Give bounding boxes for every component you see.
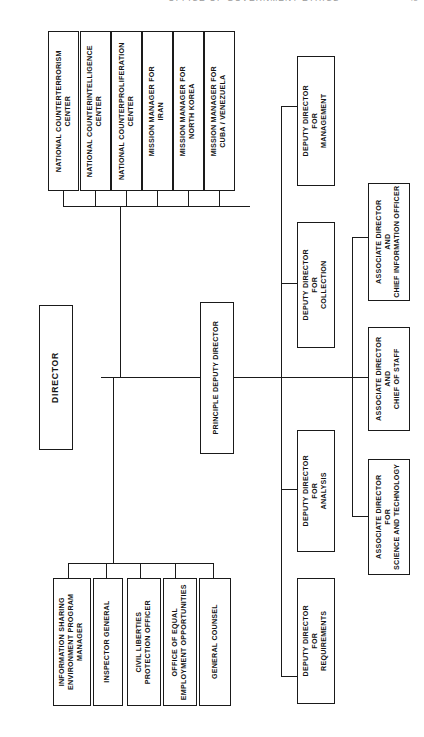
node-civil-liberties-protection-officer[interactable]: CIVIL LIBERTIESPROTECTION OFFICER (127, 578, 161, 706)
node-deputy-director-management[interactable]: DEPUTY DIRECTORFORMANAGEMENT (297, 56, 335, 186)
node-deputy-director-collection[interactable]: DEPUTY DIRECTORFORCOLLECTION (297, 222, 335, 348)
node-label: DEPUTY DIRECTORFORREQUIREMENTS (302, 605, 330, 676)
node-label: DEPUTY DIRECTORFORCOLLECTION (302, 249, 330, 320)
connector-center-drop (95, 190, 96, 207)
node-label: NATIONAL COUNTERINTELLIGENCECENTER (86, 45, 104, 177)
node-deputy-director-analysis[interactable]: DEPUTY DIRECTORFORANALYSIS (297, 430, 335, 552)
node-label: INFORMATION SHARINGENVIRONMENT PROGRAMMA… (58, 594, 86, 690)
connector-deputy-stub (281, 676, 298, 677)
node-label: DIRECTOR (51, 352, 62, 403)
node-associate-director-chief-information-officer[interactable]: ASSOCIATE DIRECTORANDCHIEF INFORMATION O… (368, 183, 410, 301)
node-director[interactable]: DIRECTOR (39, 305, 73, 450)
node-associate-director-science-and-technology[interactable]: ASSOCIATE DIRECTORFORSCIENCE AND TECHNOL… (368, 459, 410, 575)
org-chart: NATIONAL COUNTERTERRORISMCENTER NATIONAL… (0, 0, 424, 737)
node-mission-manager-north-korea[interactable]: MISSION MANAGER FORNORTH KOREA (173, 31, 204, 191)
connector-associate-stub (352, 377, 369, 378)
node-label: DEPUTY DIRECTORFORANALYSIS (302, 455, 330, 526)
node-office-of-equal-employment-opportunities[interactable]: OFFICE OF EQUALEMPLOYMENT OPPORTUNITIES (163, 578, 197, 706)
node-label: NATIONAL COUNTERPROLIFERATIONCENTER (117, 42, 135, 180)
connector-staff-riser (113, 377, 114, 564)
node-label: DEPUTY DIRECTORFORMANAGEMENT (302, 85, 330, 156)
connector-deputy-stub (281, 106, 298, 107)
node-label: ASSOCIATE DIRECTORANDCHIEF OF STAFF (375, 337, 403, 421)
node-label: PRINCIPLE DEPUTY DIRECTOR (212, 321, 221, 435)
connector-center-drop (157, 190, 158, 207)
connector-staff-drop (175, 563, 176, 578)
node-deputy-director-requirements[interactable]: DEPUTY DIRECTORFORREQUIREMENTS (297, 578, 335, 704)
connector-staff-drop (213, 563, 214, 578)
node-label: MISSION MANAGER FORCUBA / VENEZUELA (210, 66, 228, 156)
node-mission-manager-cuba-venezuela[interactable]: MISSION MANAGER FORCUBA / VENEZUELA (204, 31, 235, 191)
connector-staff-drop (140, 563, 141, 578)
node-label: GENERAL COUNSEL (210, 605, 219, 680)
connector-centers-bus-left (63, 206, 121, 207)
node-label: ASSOCIATE DIRECTORFORSCIENCE AND TECHNOL… (375, 464, 403, 570)
node-label: OFFICE OF EQUALEMPLOYMENT OPPORTUNITIES (171, 584, 189, 700)
node-label: MISSION MANAGER FORNORTH KOREA (179, 66, 197, 156)
connector-staff-drop (68, 563, 69, 578)
connector-centers-riser (120, 206, 121, 378)
node-principle-deputy-director[interactable]: PRINCIPLE DEPUTY DIRECTOR (200, 302, 234, 454)
connector-center-drop (126, 190, 127, 207)
connector-center-drop (63, 190, 64, 207)
node-inspector-general[interactable]: INSPECTOR GENERAL (93, 578, 123, 706)
connector-associate-stub (352, 237, 369, 238)
node-label: CIVIL LIBERTIESPROTECTION OFFICER (135, 600, 153, 684)
connector-center-drop (188, 190, 189, 207)
connector-associate-stub (352, 516, 369, 517)
node-label: ASSOCIATE DIRECTORANDCHIEF INFORMATION O… (375, 186, 403, 298)
connector-deputy-stub (281, 283, 298, 284)
node-national-counterproliferation-center[interactable]: NATIONAL COUNTERPROLIFERATIONCENTER (111, 31, 142, 191)
connector-centers-bus (120, 206, 250, 207)
node-general-counsel[interactable]: GENERAL COUNSEL (199, 578, 231, 706)
connector-staff-drop (106, 563, 107, 578)
node-information-sharing-environment-program-manager[interactable]: INFORMATION SHARINGENVIRONMENT PROGRAMMA… (53, 578, 91, 706)
node-associate-director-chief-of-staff[interactable]: ASSOCIATE DIRECTORANDCHIEF OF STAFF (368, 327, 410, 431)
node-label: NATIONAL COUNTERTERRORISMCENTER (54, 50, 72, 172)
node-label: INSPECTOR GENERAL (103, 601, 112, 683)
connector-center-drop (219, 190, 220, 207)
connector-deputy-stub (281, 489, 298, 490)
node-national-counterintelligence-center[interactable]: NATIONAL COUNTERINTELLIGENCECENTER (80, 31, 111, 191)
node-national-counterterrorism-center[interactable]: NATIONAL COUNTERTERRORISMCENTER (48, 31, 79, 191)
node-label: MISSION MANAGER FORIRAN (148, 66, 166, 156)
connector-deputy-spine (281, 106, 282, 676)
connector-associate-feed (301, 377, 353, 378)
node-mission-manager-iran[interactable]: MISSION MANAGER FORIRAN (142, 31, 173, 191)
